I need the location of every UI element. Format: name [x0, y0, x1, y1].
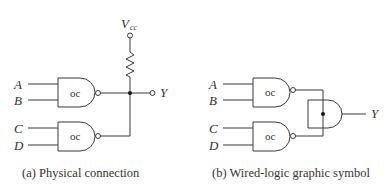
label-a: A: [13, 77, 22, 92]
vcc-subscript: cc: [130, 23, 138, 32]
caption-b: (b) Wired-logic graphic symbol: [212, 166, 370, 180]
gate-2-label: oc: [70, 130, 81, 142]
output-label-y: Y: [160, 85, 169, 100]
label-d: D: [208, 138, 219, 153]
output-label-y: Y: [371, 106, 380, 121]
label-d: D: [13, 138, 24, 153]
gate-2-output-wire: [101, 93, 131, 136]
label-b: B: [14, 93, 22, 108]
gate-1-label: oc: [265, 86, 276, 98]
label-b: B: [209, 93, 217, 108]
label-a: A: [208, 77, 217, 92]
inversion-bubble-1: [291, 88, 296, 93]
inversion-bubble-2: [291, 134, 296, 139]
caption-a: (a) Physical connection: [22, 166, 140, 180]
resistor-icon: [126, 52, 134, 77]
label-c: C: [209, 121, 218, 136]
inversion-bubble-2: [96, 134, 101, 139]
circuit-diagram: A B C D oc oc Y V cc (a) Physical connec…: [0, 0, 391, 186]
output-terminal: [150, 91, 155, 96]
inversion-bubble-1: [96, 91, 101, 96]
panel-a: A B C D oc oc Y V cc (a) Physical connec…: [13, 16, 169, 180]
gate-2-label: oc: [265, 130, 276, 142]
panel-b: A B C D oc oc Y (b) Wired-logic graphic …: [208, 77, 380, 180]
vcc-terminal: [128, 33, 133, 38]
junction-dot: [321, 112, 325, 116]
gate-1-label: oc: [70, 87, 81, 99]
label-c: C: [14, 121, 23, 136]
